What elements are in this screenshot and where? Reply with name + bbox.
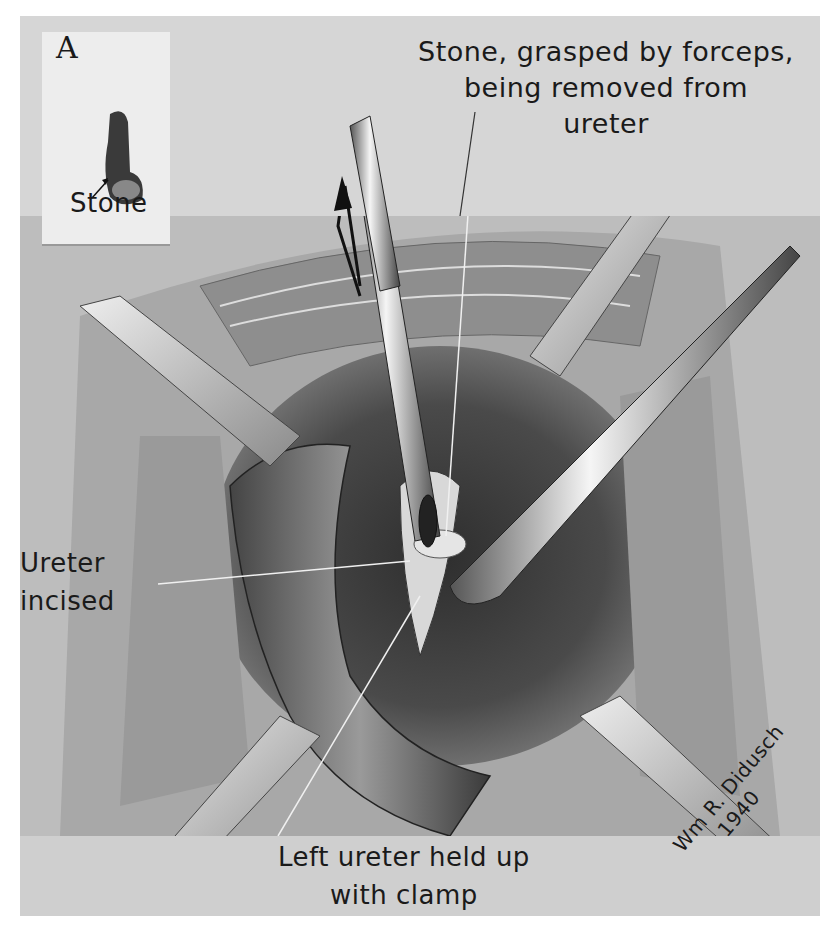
stone-forceps-line-3: ureter xyxy=(418,106,794,142)
left-ureter-label: Left ureter held up with clamp xyxy=(278,838,530,914)
stone-forceps-line-2: being removed from xyxy=(418,70,794,106)
left-ureter-line-1: Left ureter held up xyxy=(278,838,530,876)
ureter-incised-line-1: Ureter xyxy=(20,544,115,582)
stone-label: Stone xyxy=(70,188,148,218)
stone-forceps-line-1: Stone, grasped by forceps, xyxy=(418,34,794,70)
illustration-plate: A Stone Stone, grasped by forceps, being… xyxy=(20,16,820,916)
panel-letter: A xyxy=(56,30,78,65)
left-ureter-line-2: with clamp xyxy=(278,876,530,914)
ureter-incised-line-2: incised xyxy=(20,582,115,620)
stone-forceps-label: Stone, grasped by forceps, being removed… xyxy=(418,34,794,142)
ureter-incised-label: Ureter incised xyxy=(20,544,115,620)
